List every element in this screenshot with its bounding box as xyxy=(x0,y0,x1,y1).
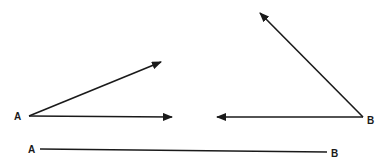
segment-start-label: A xyxy=(28,144,35,155)
ray-a-horizontal xyxy=(29,116,172,117)
vertex-label-a: A xyxy=(14,111,21,122)
segment-end-label: B xyxy=(331,148,338,159)
segment-ab: A B xyxy=(28,144,338,159)
ray-a-upper xyxy=(29,62,161,116)
segment-line xyxy=(40,149,327,152)
vertex-label-b: B xyxy=(367,115,374,126)
angle-b-figure: B xyxy=(217,13,374,126)
ray-b-upper xyxy=(260,13,363,117)
angles-diagram: A B A B xyxy=(0,0,389,163)
angle-a-figure: A xyxy=(14,62,172,122)
diagram-canvas: A B A B xyxy=(0,0,389,163)
